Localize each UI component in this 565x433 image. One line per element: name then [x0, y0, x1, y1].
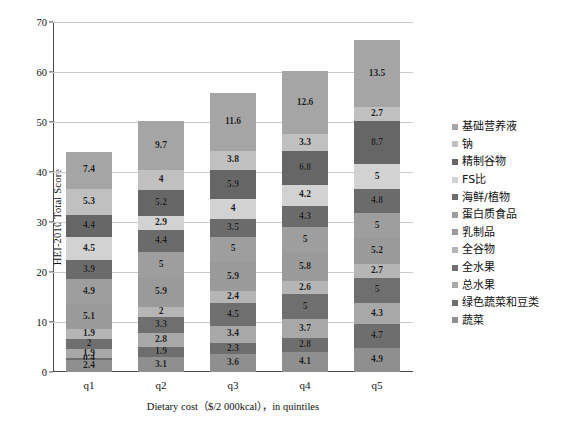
bar-segment[interactable]: 2.7 [354, 264, 400, 278]
bar-segment[interactable]: 4 [210, 199, 256, 219]
bar-segment[interactable]: 7.4 [66, 152, 112, 189]
legend-item[interactable]: 钠 [452, 136, 564, 154]
bar-segment[interactable]: 4.9 [354, 348, 400, 373]
bar-segment[interactable]: 5.1 [66, 304, 112, 330]
bar-segment[interactable]: 4.3 [354, 303, 400, 325]
segment-value-label: 5.9 [227, 272, 239, 282]
bar-segment[interactable]: 5 [354, 213, 400, 238]
bar-q2[interactable]: 9.745.22.94.455.923.32.81.93.1 [138, 121, 184, 372]
bar-segment[interactable]: 5.9 [210, 262, 256, 292]
bar-segment[interactable]: 4.7 [354, 324, 400, 348]
bar-segment[interactable]: 5.9 [138, 277, 184, 307]
x-tick-label-q2: q2 [156, 379, 167, 391]
bar-segment[interactable]: 5.2 [354, 238, 400, 264]
legend-swatch-icon [452, 229, 458, 235]
bar-segment[interactable]: 5.9 [210, 170, 256, 200]
bar-segment[interactable]: 12.6 [282, 71, 328, 134]
segment-value-label: 3.5 [227, 223, 239, 233]
y-tick-mark [49, 121, 53, 122]
bar-segment[interactable]: 3.6 [210, 354, 256, 372]
legend-item[interactable]: 总水果 [452, 276, 564, 294]
grid-line [53, 22, 413, 23]
bar-segment[interactable]: 5 [210, 237, 256, 262]
bar-segment[interactable]: 1.9 [138, 347, 184, 357]
bar-segment[interactable]: 2.3 [210, 343, 256, 355]
bar-segment[interactable]: 5.8 [282, 252, 328, 281]
bar-segment[interactable]: 4.2 [282, 185, 328, 206]
bar-segment[interactable]: 2 [138, 307, 184, 317]
segment-value-label: 4.3 [299, 212, 311, 222]
legend-label: 蔬菜 [462, 315, 484, 326]
bar-segment[interactable]: 3.7 [282, 319, 328, 338]
legend-item[interactable]: 海鲜/植物 [452, 188, 564, 206]
segment-value-label: 4.4 [83, 221, 95, 231]
bar-segment[interactable]: 3.5 [210, 219, 256, 237]
bar-segment[interactable]: 5.2 [138, 190, 184, 216]
bar-segment[interactable]: 3.1 [138, 357, 184, 373]
bar-segment[interactable]: 2.4 [210, 291, 256, 303]
bar-q4[interactable]: 12.63.36.84.24.355.82.653.72.84.1 [282, 71, 328, 372]
bar-q5[interactable]: 13.52.78.754.855.22.754.34.74.9 [354, 40, 400, 373]
bar-segment[interactable]: 2.8 [138, 333, 184, 347]
bar-segment[interactable]: 3.4 [210, 326, 256, 343]
segment-value-label: 4.8 [371, 196, 383, 206]
bar-segment[interactable]: 4.5 [66, 237, 112, 260]
bar-segment[interactable]: 4.3 [282, 206, 328, 228]
segment-value-label: 6.8 [299, 163, 311, 173]
bar-segment[interactable]: 4 [138, 170, 184, 190]
segment-value-label: 2.4 [227, 292, 239, 302]
bar-segment[interactable]: 3.3 [282, 134, 328, 151]
chart-legend: 基础营养液钠精制谷物FS比海鲜/植物蛋白质食品乳制品全谷物全水果总水果绿色蔬菜和… [452, 118, 564, 329]
legend-item[interactable]: 蛋白质食品 [452, 206, 564, 224]
segment-value-label: 2.8 [299, 340, 311, 350]
legend-item[interactable]: FS比 [452, 171, 564, 189]
x-tick-label-q4: q4 [300, 379, 311, 391]
segment-value-label: 2.8 [155, 335, 167, 345]
legend-item[interactable]: 绿色蔬菜和豆类 [452, 294, 564, 312]
segment-value-label: 8.7 [371, 138, 383, 148]
bar-segment[interactable]: 2.7 [354, 107, 400, 121]
bar-segment[interactable]: 5 [138, 252, 184, 277]
bar-segment[interactable]: 11.6 [210, 93, 256, 151]
bar-segment[interactable]: 4.5 [210, 303, 256, 326]
y-tick-label: 20 [37, 267, 48, 278]
bar-segment[interactable]: 3.3 [138, 317, 184, 334]
bar-segment[interactable]: 13.5 [354, 40, 400, 108]
bar-segment[interactable]: 5.3 [66, 189, 112, 216]
stacked-bar-chart: HEI-2010 Total Score 010203040506070 7.4… [0, 0, 565, 433]
bar-segment[interactable]: 4.4 [66, 215, 112, 237]
bar-segment[interactable]: 4.4 [138, 230, 184, 252]
segment-value-label: 7.4 [83, 165, 95, 175]
bar-segment[interactable]: 5 [354, 278, 400, 303]
bar-segment[interactable]: 6.8 [282, 151, 328, 185]
bar-segment[interactable]: 5 [282, 294, 328, 319]
bar-segment[interactable]: 3.8 [210, 151, 256, 170]
legend-item[interactable]: 基础营养液 [452, 118, 564, 136]
legend-item[interactable]: 蔬菜 [452, 312, 564, 330]
bar-segment[interactable]: 4.8 [354, 189, 400, 213]
bar-segment[interactable]: 9.7 [138, 121, 184, 170]
segment-value-label: 4.1 [299, 357, 311, 367]
bar-segment[interactable]: 2.9 [138, 216, 184, 231]
bar-segment[interactable]: 3.9 [66, 260, 112, 280]
y-tick-mark [49, 221, 53, 222]
legend-item[interactable]: 全水果 [452, 259, 564, 277]
bar-segment[interactable]: 8.7 [354, 121, 400, 165]
legend-item[interactable]: 乳制品 [452, 224, 564, 242]
segment-value-label: 5.2 [371, 246, 383, 256]
legend-swatch-icon [452, 317, 458, 323]
bar-segment[interactable]: 2.6 [282, 281, 328, 294]
legend-item[interactable]: 全谷物 [452, 241, 564, 259]
bar-q3[interactable]: 11.63.85.943.555.92.44.53.42.33.6 [210, 93, 256, 373]
segment-value-label: 9.7 [155, 141, 167, 151]
legend-item[interactable]: 精制谷物 [452, 153, 564, 171]
bar-segment[interactable]: 5 [354, 164, 400, 189]
bar-segment[interactable]: 2.4 [66, 360, 112, 372]
bar-q1[interactable]: 7.45.34.44.53.94.95.11.921.90.42.4 [66, 152, 112, 373]
segment-value-label: 3.8 [227, 155, 239, 165]
bar-segment[interactable]: 2.8 [282, 338, 328, 352]
legend-swatch-icon [452, 247, 458, 253]
bar-segment[interactable]: 4.1 [282, 352, 328, 373]
bar-segment[interactable]: 5 [282, 227, 328, 252]
bar-segment[interactable]: 4.9 [66, 279, 112, 304]
